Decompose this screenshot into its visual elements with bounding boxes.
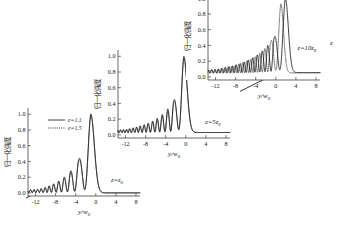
y-axis-label: 归一化强度	[3, 136, 12, 167]
y-tick-label: 0.6	[18, 142, 26, 149]
x-tick-label: -4	[253, 82, 258, 89]
y-tick-label: 0.4	[18, 158, 26, 165]
y-tick-label: 0.0	[18, 189, 26, 196]
y-tick-label: 0.0	[108, 131, 116, 138]
x-tick-label: 0	[184, 140, 187, 147]
legend-label: e=1.1	[68, 117, 82, 123]
y-tick-label: 0.8	[198, 10, 206, 17]
x-tick-label: 8	[224, 140, 227, 147]
x-tick-label: 4	[204, 140, 207, 147]
x-axis-label: y/w0	[257, 92, 271, 101]
legend-label: e=1.5	[68, 125, 82, 131]
y-axis-label: 归一化强度	[93, 78, 102, 109]
y-tick-label: 0.2	[198, 57, 206, 64]
x-tick-label: 0	[94, 198, 97, 205]
y-tick-label: 0.8	[108, 68, 116, 75]
x-tick-label: -8	[143, 140, 148, 147]
x-tick-label: -4	[73, 198, 78, 205]
x-tick-label: 4	[114, 198, 117, 205]
y-tick-label: 0.6	[198, 26, 206, 33]
x-tick-label: 0	[274, 82, 277, 89]
y-tick-label: 0.2	[18, 173, 26, 180]
y-tick-label: 0.4	[108, 100, 116, 107]
x-tick-label: -8	[233, 82, 238, 89]
x-tick-label: -12	[121, 140, 129, 147]
y-tick-label: 1.0	[18, 110, 26, 117]
y-tick-label: 0.2	[108, 115, 116, 122]
x-tick-label: 4	[294, 82, 297, 89]
x-tick-label: -12	[211, 82, 219, 89]
x-tick-label: 8	[314, 82, 317, 89]
x-tick-label: -4	[163, 140, 168, 147]
y-axis-label: 归一化强度	[183, 20, 192, 51]
y-tick-label: 1.0	[108, 52, 116, 59]
y-tick-label: 1.0	[198, 0, 206, 1]
x-axis-label: y/w0	[77, 208, 91, 217]
x-tick-label: -8	[53, 198, 58, 205]
y-tick-label: 0.8	[18, 126, 26, 133]
y-tick-label: 0.6	[108, 84, 116, 91]
x-tick-label: -12	[31, 198, 39, 205]
y-tick-label: 0.4	[198, 42, 206, 49]
y-tick-label: 0.0	[198, 73, 206, 80]
figure-canvas: z-12-8-40480.00.20.40.60.81.0y/w0归一化强度z=…	[0, 0, 351, 236]
x-axis-label: y/w0	[167, 150, 181, 159]
x-tick-label: 8	[134, 198, 137, 205]
